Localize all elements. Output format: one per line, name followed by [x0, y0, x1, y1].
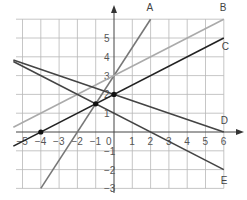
x-tick-label: 4 — [184, 136, 190, 147]
x-tick-label: 5 — [203, 136, 209, 147]
x-tick-label: 2 — [148, 136, 154, 147]
grid — [16, 19, 224, 188]
axes — [16, 5, 244, 193]
intersection-point — [38, 129, 43, 134]
x-tick-label: −1 — [90, 136, 102, 147]
x-tick-label: 6 — [221, 136, 227, 147]
y-tick-label: −2 — [104, 165, 116, 176]
y-tick-label: −3 — [104, 183, 116, 194]
line-label-d: D — [221, 115, 228, 126]
x-tick-label: 1 — [129, 136, 135, 147]
series-line-e — [13, 62, 223, 170]
series-line-c — [13, 38, 223, 146]
y-tick-label: 4 — [104, 52, 110, 63]
series-lines — [13, 19, 223, 188]
series-line-b — [13, 19, 223, 127]
y-tick-label: 5 — [104, 33, 110, 44]
line-label-e: E — [221, 175, 228, 186]
x-axis-arrow-icon — [236, 129, 244, 135]
tick-labels: −5−4−3−2−112345654321−1−2−3 — [17, 33, 227, 194]
x-tick-label: −4 — [35, 136, 47, 147]
y-tick-label: −1 — [104, 146, 116, 157]
y-axis-arrow-icon — [111, 5, 117, 13]
line-label-c: C — [222, 41, 229, 52]
intersection-point — [111, 92, 116, 97]
x-tick-label: −3 — [53, 136, 65, 147]
line-labels: ABCDE — [147, 2, 229, 185]
line-graph: −5−4−3−2−112345654321−1−2−3 ABCDE 0 — [0, 0, 247, 200]
series-line-d — [13, 60, 223, 132]
line-label-a: A — [147, 2, 154, 13]
line-label-b: B — [220, 2, 227, 13]
intersection-point — [93, 101, 98, 106]
origin-label: 0 — [106, 136, 112, 147]
